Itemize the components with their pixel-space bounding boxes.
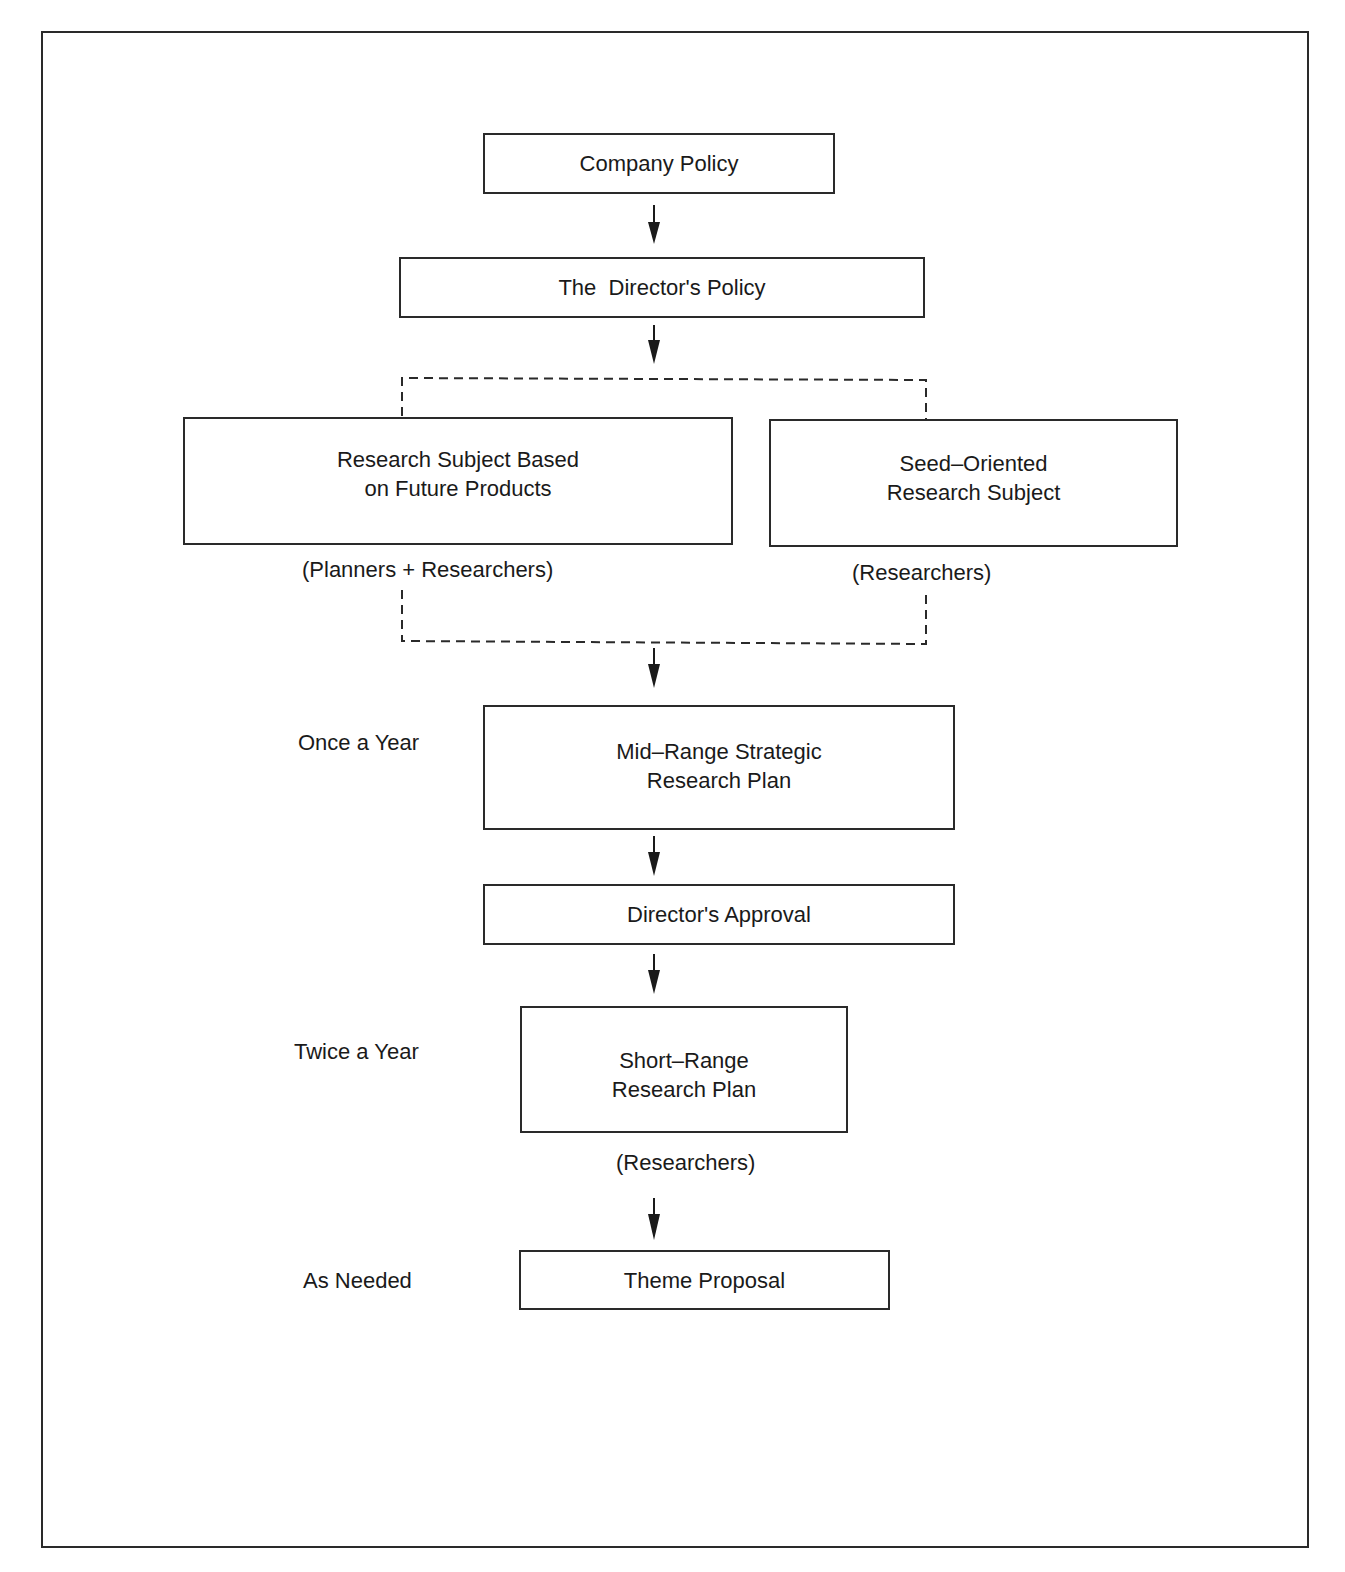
node-short-range-research-plan: Short–Range Research Plan — [520, 1006, 848, 1133]
node-label: Company Policy — [580, 149, 739, 178]
node-company-policy: Company Policy — [483, 133, 835, 194]
node-research-subject-future-products: Research Subject Based on Future Product… — [183, 417, 733, 545]
frequency-twice-a-year: Twice a Year — [294, 1039, 419, 1065]
node-label-line2: Research Subject — [887, 478, 1061, 507]
node-mid-range-strategic-research-plan: Mid–Range Strategic Research Plan — [483, 705, 955, 830]
node-label-line1: Mid–Range Strategic — [616, 737, 821, 766]
node-label-line2: on Future Products — [337, 474, 579, 503]
node-directors-approval: Director's Approval — [483, 884, 955, 945]
node-label: The Director's Policy — [558, 273, 765, 302]
node-theme-proposal: Theme Proposal — [519, 1250, 890, 1310]
node-label-line1: Short–Range — [612, 1046, 756, 1075]
actors-researchers-short-range: (Researchers) — [616, 1150, 755, 1176]
node-label-line2: Research Plan — [616, 766, 821, 795]
node-label: Theme Proposal — [624, 1266, 785, 1295]
node-label-line1: Seed–Oriented — [887, 449, 1061, 478]
node-label: Director's Approval — [627, 900, 811, 929]
frequency-once-a-year: Once a Year — [298, 730, 419, 756]
node-seed-oriented-research-subject: Seed–Oriented Research Subject — [769, 419, 1178, 547]
node-label-line2: Research Plan — [612, 1075, 756, 1104]
actors-researchers-seed: (Researchers) — [852, 560, 991, 586]
node-label-line1: Research Subject Based — [337, 445, 579, 474]
frequency-as-needed: As Needed — [303, 1268, 412, 1294]
actors-planners-researchers: (Planners + Researchers) — [302, 557, 553, 583]
node-directors-policy: The Director's Policy — [399, 257, 925, 318]
